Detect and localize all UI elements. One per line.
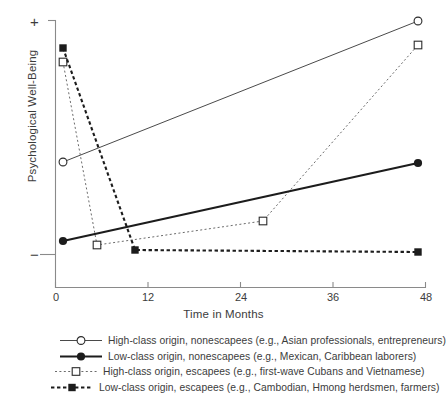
chart-legend: High-class origin, nonescapees (e.g., As… (0, 333, 447, 395)
legend-label: Low-class origin, nonescapees (e.g., Mex… (108, 351, 416, 362)
y-axis-minus-sign: − (30, 247, 39, 262)
axis-lines (55, 20, 426, 288)
x-axis-label: Time in Months (0, 308, 447, 320)
x-tick-label-24: 24 (226, 291, 256, 303)
legend-item-low-class-nonescapees: Low-class origin, nonescapees (e.g., Mex… (0, 349, 447, 365)
x-tick-label-36: 36 (318, 291, 348, 303)
filled-circle-icon (58, 349, 104, 364)
series-high-class-escapees (59, 41, 422, 249)
filled-square-icon (49, 380, 95, 395)
y-axis-label: Psychological Well-Being (26, 26, 38, 206)
legend-item-low-class-escapees: Low-class origin, escapees (e.g., Cambod… (0, 380, 447, 396)
x-tick-label-12: 12 (133, 291, 163, 303)
plot-area: Psychological Well-Being + − 0 12 24 36 … (0, 0, 447, 330)
series-low-class-nonescapees (59, 159, 422, 245)
legend-label: High-class origin, escapees (e.g., first… (103, 366, 424, 377)
chart-canvas (0, 0, 447, 330)
legend-label: Low-class origin, escapees (e.g., Cambod… (99, 382, 440, 393)
y-end-ticks (40, 21, 56, 255)
y-axis-plus-sign: + (30, 14, 39, 29)
x-tick-label-48: 48 (411, 291, 441, 303)
legend-item-high-class-nonescapees: High-class origin, nonescapees (e.g., As… (0, 333, 447, 349)
series-high-class-nonescapees (59, 17, 422, 166)
open-circle-icon (58, 333, 104, 348)
chart-figure: Psychological Well-Being + − 0 12 24 36 … (0, 0, 447, 403)
legend-label: High-class origin, nonescapees (e.g., As… (108, 335, 446, 346)
open-square-icon (53, 364, 99, 379)
legend-item-high-class-escapees: High-class origin, escapees (e.g., first… (0, 364, 447, 380)
x-tick-label-0: 0 (41, 291, 71, 303)
